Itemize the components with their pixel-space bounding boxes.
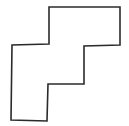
diagram-canvas xyxy=(0,0,129,126)
polygon-outline xyxy=(11,7,120,121)
staircase-polygon-figure xyxy=(0,0,129,126)
